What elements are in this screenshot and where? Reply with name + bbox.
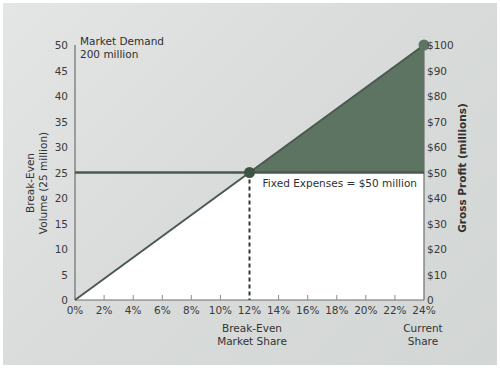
svg-text:30: 30 — [55, 141, 68, 153]
svg-text:$70: $70 — [427, 116, 447, 128]
current-share-label-2: Share — [408, 335, 438, 347]
fixed-expenses-label: Fixed Expenses = $50 million — [263, 177, 417, 189]
svg-text:45: 45 — [55, 65, 68, 77]
svg-text:18%: 18% — [325, 304, 348, 316]
current-share-label-1: Current — [403, 322, 442, 334]
svg-text:10%: 10% — [209, 304, 232, 316]
break-even-share-label-1: Break-Even — [222, 322, 282, 334]
svg-text:5: 5 — [61, 269, 68, 281]
svg-text:14%: 14% — [267, 304, 290, 316]
break-even-share-label-2: Market Share — [217, 335, 287, 347]
left-y-tick-labels: 0 5 10 15 20 25 30 35 40 45 50 — [55, 39, 68, 306]
x-tick-labels: 0% 2% 4% 6% 8% 10% 12% 14% 16% 18% 20% 2… — [67, 304, 436, 316]
svg-text:4%: 4% — [125, 304, 142, 316]
svg-text:$10: $10 — [427, 269, 447, 281]
svg-text:35: 35 — [55, 116, 68, 128]
svg-text:2%: 2% — [96, 304, 113, 316]
svg-text:16%: 16% — [296, 304, 319, 316]
svg-text:8%: 8% — [183, 304, 200, 316]
market-demand-value: 200 million — [80, 48, 138, 60]
svg-text:$20: $20 — [427, 243, 447, 255]
svg-text:25: 25 — [55, 167, 68, 179]
svg-text:$30: $30 — [427, 218, 447, 230]
right-y-tick-labels: 0 $10 $20 $30 $40 $50 $60 $70 $80 $90 $1… — [427, 39, 454, 306]
svg-text:22%: 22% — [383, 304, 406, 316]
left-y-axis-title-1: Break-Even — [24, 153, 36, 213]
svg-text:$90: $90 — [427, 65, 447, 77]
svg-text:$100: $100 — [427, 39, 454, 51]
svg-text:6%: 6% — [154, 304, 171, 316]
market-demand-label: Market Demand — [80, 35, 164, 47]
svg-text:15: 15 — [55, 218, 68, 230]
svg-text:$50: $50 — [427, 167, 447, 179]
svg-text:$60: $60 — [427, 141, 447, 153]
svg-text:$80: $80 — [427, 90, 447, 102]
svg-text:10: 10 — [55, 243, 68, 255]
svg-text:20%: 20% — [354, 304, 377, 316]
svg-text:$40: $40 — [427, 192, 447, 204]
svg-text:20: 20 — [55, 192, 68, 204]
svg-text:50: 50 — [55, 39, 68, 51]
right-y-axis-title: Gross Profit (millions) — [456, 103, 468, 233]
svg-text:40: 40 — [55, 90, 68, 102]
break-even-point — [244, 167, 255, 178]
left-y-axis-title-2: Volume (25 million) — [37, 132, 49, 234]
svg-text:24%: 24% — [412, 304, 435, 316]
break-even-chart: Market Demand 200 million Fixed Expenses… — [0, 0, 500, 370]
svg-text:12%: 12% — [238, 304, 261, 316]
svg-text:0%: 0% — [67, 304, 84, 316]
